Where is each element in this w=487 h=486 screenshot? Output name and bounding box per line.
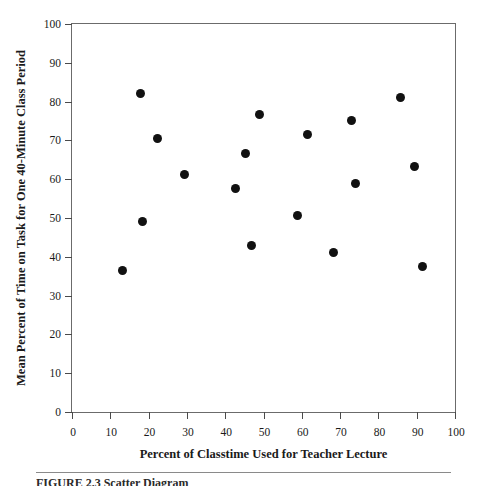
x-axis-tick: 60 <box>302 412 303 419</box>
scatter-point <box>347 116 356 125</box>
y-axis-tick-label: 60 <box>50 174 62 186</box>
y-axis-tick: 20 <box>65 334 72 335</box>
x-axis-tick-label: 70 <box>335 427 347 439</box>
x-axis-tick-label: 10 <box>106 427 118 439</box>
scatter-point <box>180 170 189 179</box>
x-axis-tick-label: 100 <box>447 427 464 439</box>
y-axis-tick-label: 50 <box>50 213 62 225</box>
x-axis-tick-label: 50 <box>259 427 271 439</box>
y-axis-tick-label: 0 <box>55 407 61 419</box>
scatter-point <box>418 262 427 271</box>
x-axis-tick: 20 <box>149 412 150 419</box>
y-axis-tick: 60 <box>65 179 72 180</box>
x-axis-tick: 50 <box>264 412 265 419</box>
y-axis-tick-label: 80 <box>50 97 62 109</box>
y-axis-tick: 70 <box>65 140 72 141</box>
y-axis-tick-label: 90 <box>50 58 62 70</box>
scatter-point <box>255 110 264 119</box>
y-axis-tick: 50 <box>65 218 72 219</box>
x-axis-title: Percent of Classtime Used for Teacher Le… <box>71 447 456 462</box>
scatter-plot-area: 0102030405060708090100010203040506070809… <box>71 23 456 413</box>
y-axis-tick: 10 <box>65 373 72 374</box>
scatter-point <box>351 179 360 188</box>
y-axis-tick: 0 <box>65 412 72 413</box>
x-axis-tick-label: 30 <box>182 427 194 439</box>
scatter-point <box>410 162 419 171</box>
figure-container: 0102030405060708090100010203040506070809… <box>0 0 487 486</box>
x-axis-tick: 100 <box>455 412 456 419</box>
scatter-point <box>396 93 405 102</box>
x-axis-tick: 10 <box>110 412 111 419</box>
scatter-point <box>231 184 240 193</box>
y-axis-tick: 40 <box>65 257 72 258</box>
y-axis-tick: 100 <box>65 24 72 25</box>
caption-divider <box>36 472 451 473</box>
y-axis-tick: 30 <box>65 296 72 297</box>
scatter-point <box>303 130 312 139</box>
x-axis-tick-label: 0 <box>70 427 76 439</box>
x-axis-tick: 40 <box>225 412 226 419</box>
y-axis-tick-label: 10 <box>50 368 62 380</box>
y-axis-tick-label: 70 <box>50 136 62 148</box>
x-axis-tick: 30 <box>187 412 188 419</box>
figure-caption: FIGURE 2.3 Scatter Diagram <box>36 477 451 486</box>
y-axis-tick-label: 40 <box>50 252 62 264</box>
scatter-point <box>138 217 147 226</box>
scatter-point <box>247 241 256 250</box>
x-axis-tick-label: 60 <box>297 427 309 439</box>
x-axis-tick-label: 80 <box>374 427 386 439</box>
x-axis-tick: 90 <box>417 412 418 419</box>
y-axis-tick-label: 100 <box>44 19 61 31</box>
scatter-point <box>241 149 250 158</box>
y-axis-tick-label: 20 <box>50 330 62 342</box>
x-axis-tick-label: 40 <box>220 427 232 439</box>
x-axis-tick-label: 20 <box>144 427 156 439</box>
scatter-point <box>118 266 127 275</box>
x-axis-tick: 80 <box>378 412 379 419</box>
y-axis-tick: 80 <box>65 102 72 103</box>
scatter-point <box>153 134 162 143</box>
scatter-point <box>293 211 302 220</box>
x-axis-tick: 70 <box>340 412 341 419</box>
scatter-point <box>329 248 338 257</box>
y-axis-title: Mean Percent of Time on Task for One 40-… <box>12 23 30 413</box>
y-axis-tick-label: 30 <box>50 291 62 303</box>
y-axis-tick: 90 <box>65 63 72 64</box>
x-axis-tick-label: 90 <box>412 427 424 439</box>
scatter-point <box>136 89 145 98</box>
x-axis-tick: 0 <box>72 412 73 419</box>
